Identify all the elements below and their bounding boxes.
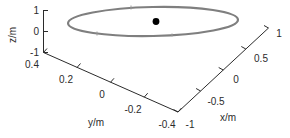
- marker-point: [153, 18, 160, 25]
- x-tick-mark-m05: [196, 89, 201, 92]
- z-tick-label-m1: -1: [30, 47, 39, 58]
- y-tick-label-04: 0.4: [25, 59, 39, 70]
- y-axis-title: y/m: [88, 117, 104, 128]
- z-axis-ticks: [44, 11, 49, 53]
- x-tick-label-m1: -1: [186, 119, 195, 130]
- z-tick-label-1: 1: [33, 5, 39, 16]
- z-axis-title: z/m: [7, 27, 18, 43]
- x-axis-title: x/m: [220, 112, 236, 123]
- z-tick-label-0: 0: [33, 26, 39, 37]
- y-tick-mark-m02: [144, 93, 148, 97]
- plot-figure: 1 0 -1 z/m 0.4 0.2 0 -0.2 -0.4 y/m -1 -0…: [0, 0, 290, 138]
- axis-lines: [44, 10, 269, 112]
- x-tick-label-m05: -0.5: [207, 96, 225, 107]
- x-tick-label-05: 0.5: [254, 53, 268, 64]
- y-tick-mark-0: [111, 78, 115, 82]
- y-tick-label-02: 0.2: [59, 74, 73, 85]
- y-tick-mark-04: [44, 49, 48, 53]
- plot-canvas: 1 0 -1 z/m 0.4 0.2 0 -0.2 -0.4 y/m -1 -0…: [0, 0, 290, 138]
- y-tick-label-m02: -0.2: [124, 104, 142, 115]
- x-tick-label-0: 0: [233, 74, 239, 85]
- y-tick-label-m04: -0.4: [158, 119, 176, 130]
- y-tick-mark-02: [77, 64, 81, 68]
- y-tick-mark-m04: [178, 108, 182, 112]
- y-tick-label-0: 0: [99, 89, 105, 100]
- x-tick-mark-1: [264, 26, 269, 29]
- x-tick-mark-05: [241, 47, 246, 50]
- x-tick-label-1: 1: [276, 28, 282, 39]
- x-tick-mark-0: [219, 68, 224, 71]
